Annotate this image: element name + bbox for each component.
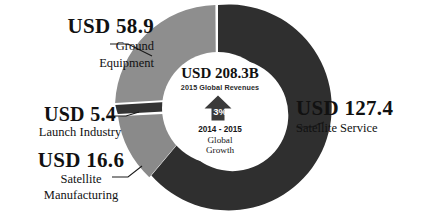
callout-launch-industry[interactable]: USD 5.4 Launch Industry <box>10 104 150 140</box>
callout-satellite-service-amount: USD 127.4 <box>296 98 435 119</box>
growth-percent-value: 3% <box>197 107 243 117</box>
callout-ground-equipment-line1: Ground <box>22 40 154 54</box>
growth-years-label: 2014 - 2015 <box>160 125 280 134</box>
callout-ground-equipment-amount: USD 58.9 <box>22 16 154 37</box>
callout-satellite-manufacturing[interactable]: USD 16.6 Satellite Manufacturing <box>6 150 156 202</box>
donut-chart: USD 58.9 Ground Equipment USD 5.4 Launch… <box>0 0 435 216</box>
callout-satellite-service-line1: Satellite Service <box>296 122 435 136</box>
donut-center-label: USD 208.3B 2015 Global Revenues 3% 2014 … <box>160 66 280 155</box>
callout-launch-industry-line1: Launch Industry <box>10 126 150 140</box>
callout-ground-equipment[interactable]: USD 58.9 Ground Equipment <box>22 16 154 70</box>
callout-satellite-manufacturing-line2: Manufacturing <box>6 189 156 203</box>
total-revenue-value: USD 208.3B <box>160 66 280 81</box>
growth-caption-line2: Growth <box>160 145 280 155</box>
callout-launch-industry-amount: USD 5.4 <box>10 104 150 124</box>
callout-satellite-manufacturing-line1: Satellite <box>6 173 156 187</box>
callout-satellite-manufacturing-amount: USD 16.6 <box>6 150 156 171</box>
growth-indicator: 3% <box>197 94 243 124</box>
growth-caption-line1: Global <box>160 135 280 145</box>
callout-satellite-service[interactable]: USD 127.4 Satellite Service <box>296 98 435 136</box>
total-revenue-caption: 2015 Global Revenues <box>160 84 280 91</box>
callout-ground-equipment-line2: Equipment <box>22 57 154 71</box>
